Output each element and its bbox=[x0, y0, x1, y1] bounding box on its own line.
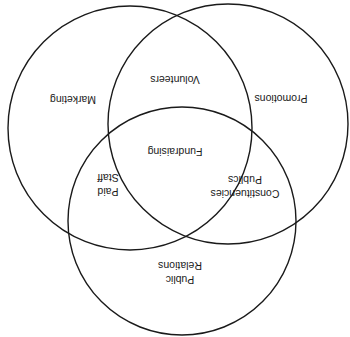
label-constituencies-publics-line2: Publics bbox=[211, 173, 280, 187]
label-public-relations-line2: Relations bbox=[158, 259, 202, 273]
label-volunteers: Volunteers bbox=[150, 73, 200, 87]
label-fundraising-line1: Fundraising bbox=[148, 145, 203, 159]
circle-public-relations bbox=[68, 107, 296, 335]
label-paid-staff: Paid Staff bbox=[97, 171, 118, 199]
label-marketing: Marketing bbox=[50, 93, 96, 107]
label-volunteers-line1: Volunteers bbox=[150, 73, 200, 87]
label-constituencies-publics: Constituencies Publics bbox=[211, 173, 280, 201]
label-fundraising: Fundraising bbox=[148, 145, 203, 159]
label-constituencies-publics-line1: Constituencies bbox=[211, 187, 280, 201]
circle-marketing bbox=[8, 6, 252, 250]
label-promotions: Promotions bbox=[254, 92, 307, 106]
label-public-relations: Public Relations bbox=[158, 259, 202, 287]
label-marketing-line1: Marketing bbox=[50, 93, 96, 107]
circle-promotions bbox=[108, 4, 348, 244]
label-promotions-line1: Promotions bbox=[254, 92, 307, 106]
label-public-relations-line1: Public bbox=[158, 273, 202, 287]
label-paid-staff-line1: Paid bbox=[97, 185, 118, 199]
label-paid-staff-line2: Staff bbox=[97, 171, 118, 185]
